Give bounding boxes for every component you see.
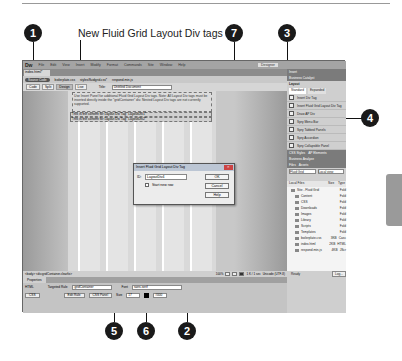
color-swatch[interactable] <box>144 293 149 298</box>
caption-new-fluid-grid: New Fluid Grid Layout Div tags <box>78 27 223 39</box>
menu-window[interactable]: Window <box>160 63 172 67</box>
file-tree: Site - Fluid GridFold ContentFold CSSFol… <box>287 187 346 271</box>
fluid-div-icon <box>289 103 294 108</box>
document-tabs: index.html* <box>23 69 287 76</box>
live-view-button[interactable]: Live <box>75 84 87 90</box>
zoom-level[interactable]: 100% <box>216 272 224 276</box>
related-fluidgrid[interactable]: styles/fluidgrid.css* <box>80 78 107 82</box>
color-input[interactable]: #000 <box>153 293 167 298</box>
menu-commands[interactable]: Commands <box>124 63 142 67</box>
insert-fluid-grid-div-item[interactable]: Insert Fluid Grid Layout Div Tag <box>287 102 346 110</box>
folder-icon <box>295 231 299 234</box>
log-button[interactable]: Log... <box>332 271 346 277</box>
standard-tab[interactable]: Standard <box>289 88 306 94</box>
spry-accordion-item[interactable]: Spry Accordion <box>287 134 346 142</box>
close-icon[interactable]: ✕ <box>224 165 233 170</box>
size-header[interactable]: Size <box>328 181 338 187</box>
spry-menu-bar-item[interactable]: Spry Menu Bar <box>287 118 346 126</box>
cancel-button[interactable]: Cancel <box>205 183 229 189</box>
html-file-icon <box>295 243 299 246</box>
folder-icon <box>295 219 299 222</box>
insert-div-tag-item[interactable]: Insert Div Tag <box>287 94 346 102</box>
folder-icon <box>295 207 299 210</box>
menu-insert[interactable]: Insert <box>76 63 85 67</box>
title-label: Title: <box>99 85 106 89</box>
spry-tabbed-panels-item[interactable]: Spry Tabbed Panels <box>287 126 346 134</box>
view-select[interactable]: Local view <box>318 169 345 174</box>
assets-tab[interactable]: Assets <box>299 162 309 168</box>
site-select[interactable]: Fluid Grid <box>289 169 316 174</box>
encoding: Unicode (UTF-8) <box>263 272 285 276</box>
type-header[interactable]: Type <box>338 181 346 187</box>
menu-bar-icon <box>289 119 294 124</box>
callout-2: 2 <box>178 322 196 340</box>
callout-5: 5 <box>105 322 123 340</box>
related-respond[interactable]: respond.min.js <box>112 78 133 82</box>
workspace-switcher[interactable]: Designer <box>258 63 278 67</box>
right-panel: Insert Business Catalyst Layout Standard… <box>287 69 346 313</box>
folder-icon <box>291 189 295 192</box>
callout-4: 4 <box>361 109 379 127</box>
menu-file[interactable]: File <box>39 63 45 67</box>
document-toolbar: Code Split Design Live Title: Untitled D… <box>23 83 287 91</box>
related-files-bar: Source Code boilerplate.css styles/fluid… <box>23 76 287 83</box>
category-dropdown[interactable]: Layout <box>287 81 346 88</box>
title-input[interactable]: Untitled Document <box>112 85 172 90</box>
html-mode-button[interactable]: HTML <box>25 285 34 289</box>
desktop-size-button[interactable] <box>239 272 244 276</box>
menu-format[interactable]: Format <box>107 63 118 67</box>
ap-div-icon <box>289 111 294 116</box>
spry-collapsible-item[interactable]: Spry Collapsible Panel <box>287 142 346 150</box>
expanded-tab[interactable]: Expanded <box>308 88 326 94</box>
download-size: 1 K / 1 sec <box>246 272 260 276</box>
menu-view[interactable]: View <box>62 63 70 67</box>
callout-1: 1 <box>24 24 42 42</box>
id-label: ID: <box>137 175 141 179</box>
properties-inspector: Properties HTML Targeted Rule .gridConta… <box>23 277 287 313</box>
font-select[interactable]: sans-serif <box>132 285 182 290</box>
font-label: Font <box>122 285 128 289</box>
page-rule <box>22 3 390 4</box>
menu-site[interactable]: Site <box>148 63 154 67</box>
menu-modify[interactable]: Modify <box>90 63 100 67</box>
related-boilerplate[interactable]: boilerplate.css <box>55 78 75 82</box>
file-row[interactable]: respond.min.js4KBJScr <box>287 247 346 253</box>
tag-selector[interactable]: <body> <div.gridContainer.clearfix> <box>25 272 72 276</box>
help-button[interactable]: Help <box>205 192 229 198</box>
ready-status: Ready <box>291 272 332 276</box>
targeted-rule-label: Targeted Rule <box>48 285 68 289</box>
code-view-button[interactable]: Code <box>26 84 40 90</box>
ok-button[interactable]: OK <box>205 174 229 180</box>
css-mode-button[interactable]: CSS <box>25 293 40 298</box>
folder-icon <box>295 225 299 228</box>
local-files-header[interactable]: Local Files <box>289 181 328 187</box>
menu-bar: Dw File Edit View Insert Modify Format C… <box>23 61 346 69</box>
folder-icon <box>295 201 299 204</box>
js-file-icon <box>295 249 299 252</box>
size-select[interactable]: 17 <box>126 293 140 298</box>
properties-tab[interactable]: Properties <box>23 277 46 283</box>
related-source-code[interactable]: Source Code <box>25 78 50 82</box>
files-tab[interactable]: Files <box>289 162 296 168</box>
draw-ap-div-item[interactable]: Draw AP Div <box>287 110 346 118</box>
css-file-icon <box>295 237 299 240</box>
mobile-size-button[interactable] <box>225 272 230 276</box>
tabbed-icon <box>289 127 294 132</box>
edit-rule-button[interactable]: Edit Rule <box>64 293 85 298</box>
folder-icon <box>295 195 299 198</box>
start-new-row-label: Start new row <box>152 183 173 187</box>
split-view-button[interactable]: Split <box>42 84 54 90</box>
callout-3: 3 <box>278 24 296 42</box>
div-icon <box>289 95 294 100</box>
menu-help[interactable]: Help <box>178 63 185 67</box>
fluid-grid-info-text: Use Insert Panel for additional Fluid Gr… <box>72 92 212 112</box>
layout-div-2[interactable]: This is the content for Layout Div Tag "… <box>70 117 212 122</box>
targeted-rule-select[interactable]: .gridContainer <box>72 285 112 290</box>
id-input[interactable]: LayoutDiv4 <box>145 174 187 180</box>
grid-column <box>106 121 128 271</box>
menu-edit[interactable]: Edit <box>50 63 56 67</box>
tablet-size-button[interactable] <box>232 272 237 276</box>
start-new-row-checkbox[interactable] <box>145 183 149 187</box>
css-panel-button[interactable]: CSS Panel <box>89 293 113 298</box>
design-view-button[interactable]: Design <box>56 84 72 90</box>
